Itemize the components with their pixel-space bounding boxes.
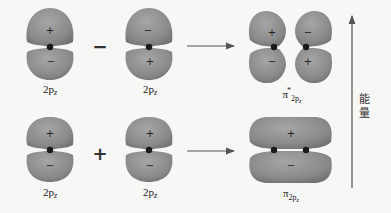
label-subscript: z <box>54 88 57 97</box>
orbital-label-2pz: 2pz <box>43 83 57 97</box>
phase-sign: + <box>46 26 54 36</box>
nucleus-dot-right <box>303 44 309 50</box>
phase-sign: − <box>47 57 55 67</box>
phase-sign: + <box>146 57 154 67</box>
nucleus-dot-left <box>271 44 277 50</box>
label-main: 2p <box>143 83 154 95</box>
label-subscript: z <box>154 88 157 97</box>
phase-sign: − <box>144 26 152 36</box>
phase-sign: + <box>287 129 295 139</box>
orbital-2pz-top-right <box>126 8 173 80</box>
nucleus-dot <box>146 147 152 153</box>
nucleus-dot <box>47 147 53 153</box>
orbital-label-2pz: 2pz <box>143 186 157 200</box>
phase-sign: − <box>304 28 312 38</box>
orbital-pi-2pz <box>249 117 331 183</box>
phase-sign: + <box>304 57 312 67</box>
orbital-diagram-canvas <box>0 0 391 213</box>
phase-sign: − <box>146 161 154 171</box>
label-main: 2p <box>143 186 154 198</box>
orbital-pi-star-2pz <box>249 11 332 83</box>
energy-label-char-1: 能 <box>357 93 371 107</box>
nucleus-dot-right <box>303 147 309 153</box>
orbital-2pz-bottom-left <box>27 117 74 182</box>
addition-operator: + <box>92 143 107 164</box>
lobe-top-right <box>295 11 332 47</box>
label-subscript: 2pz <box>289 193 299 202</box>
phase-sign: + <box>146 129 154 139</box>
nucleus-dot <box>146 44 152 50</box>
label-subscript: 2pz <box>291 94 301 103</box>
energy-axis-label: 能 量 <box>357 93 371 121</box>
orbital-label-pi-star-2pz: π*2pz <box>283 86 302 104</box>
label-subscript: z <box>54 191 57 200</box>
orbital-label-2pz: 2pz <box>43 186 57 200</box>
label-subscript: z <box>154 191 157 200</box>
subtraction-operator: − <box>92 36 107 57</box>
phase-sign: + <box>46 129 54 139</box>
orbital-label-pi-2pz: π2pz <box>283 187 299 203</box>
phase-sign: − <box>268 57 276 67</box>
orbital-label-2pz: 2pz <box>143 83 157 97</box>
phase-sign: + <box>268 28 276 38</box>
phase-sign: − <box>46 161 54 171</box>
lobe-bottom-right <box>295 48 332 83</box>
label-main: 2p <box>43 186 54 198</box>
orbital-2pz-bottom-right <box>126 117 173 182</box>
phase-sign: − <box>287 161 295 171</box>
nucleus-dot <box>47 44 53 50</box>
label-main: 2p <box>43 83 54 95</box>
nucleus-dot-left <box>271 147 277 153</box>
orbital-2pz-top-left <box>27 8 74 80</box>
energy-label-char-2: 量 <box>357 107 371 121</box>
